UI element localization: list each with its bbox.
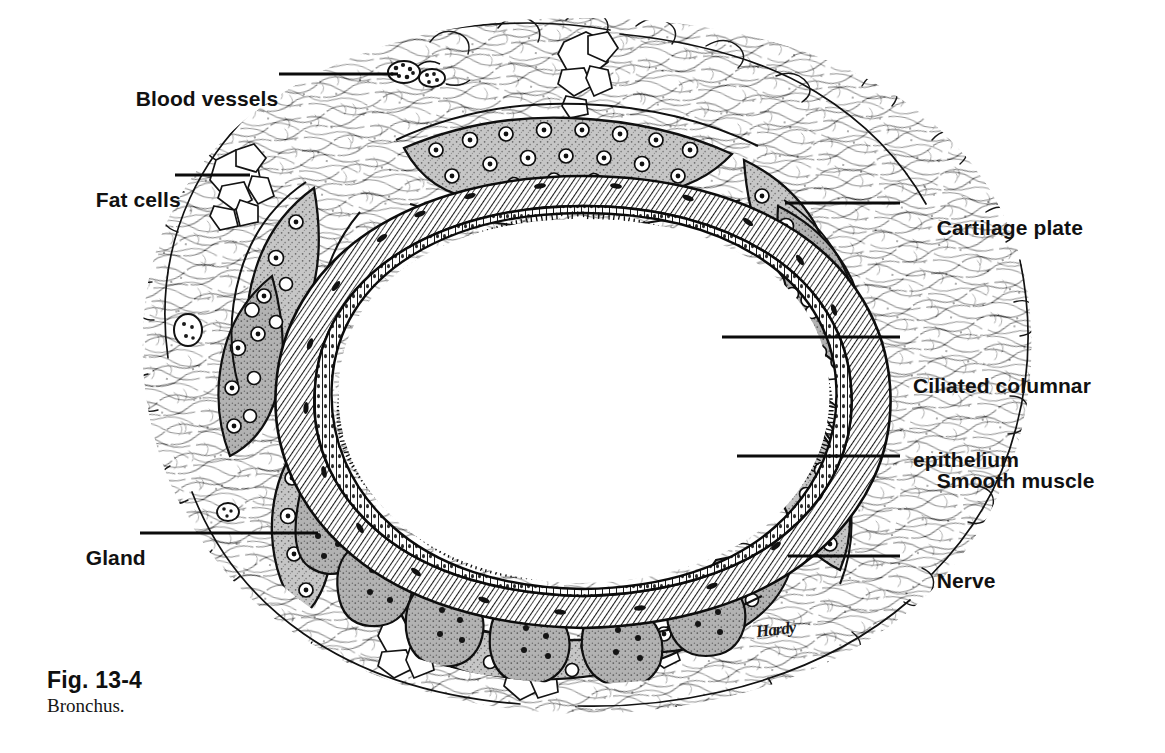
label-ciliated-columnar-epithelium-line1: Ciliated columnar <box>913 374 1091 399</box>
label-cartilage-plate: Cartilage plate <box>913 191 1083 265</box>
figure-number: Fig. 13-4 <box>47 668 142 693</box>
label-smooth-muscle-text: Smooth muscle <box>937 469 1095 492</box>
label-nerve: Nerve <box>913 544 996 618</box>
label-blood-vessels: Blood vessels <box>112 62 278 136</box>
label-nerve-text: Nerve <box>937 569 996 592</box>
label-gland: Gland <box>62 521 146 595</box>
label-cartilage-plate-text: Cartilage plate <box>937 216 1083 239</box>
figure-title: Bronchus. <box>47 696 142 717</box>
blood-vessel-small-left <box>174 314 202 346</box>
label-blood-vessels-text: Blood vessels <box>136 87 279 110</box>
label-gland-text: Gland <box>86 546 146 569</box>
label-fat-cells: Fat cells <box>72 163 181 237</box>
bronchial-lumen <box>339 219 830 583</box>
label-fat-cells-text: Fat cells <box>96 188 181 211</box>
figure-root: Blood vessels Fat cells Gland Cartilage … <box>0 0 1165 753</box>
blood-vessel-bottom-left <box>217 503 239 521</box>
label-smooth-muscle: Smooth muscle <box>913 444 1094 518</box>
figure-caption: Fig. 13-4 Bronchus. <box>47 668 142 717</box>
